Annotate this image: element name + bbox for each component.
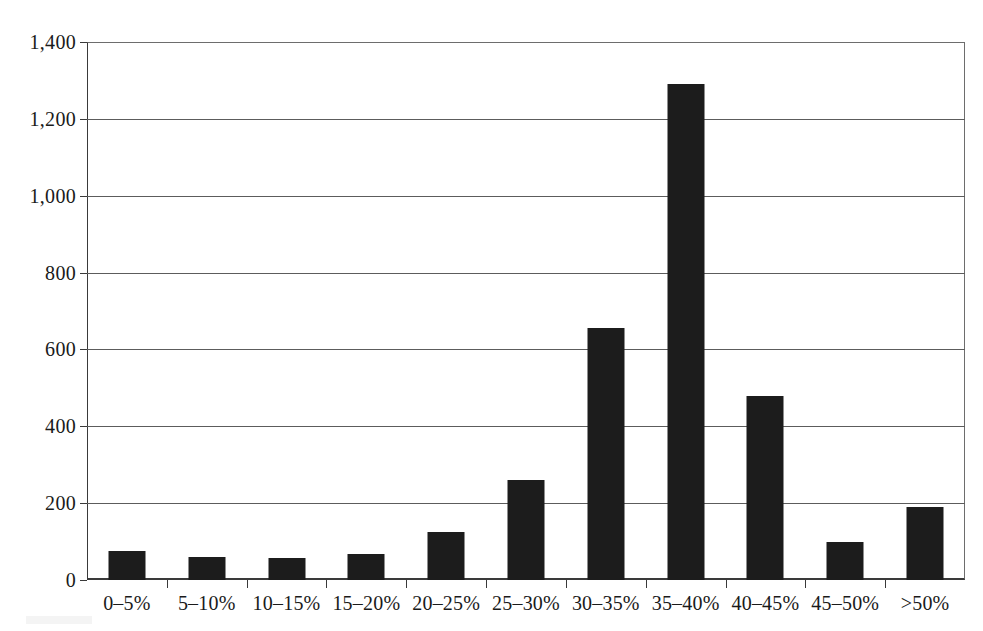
y-axis-tick-mark <box>80 349 87 350</box>
y-axis-tick-mark <box>80 42 87 43</box>
bar-slot <box>406 42 486 580</box>
bar <box>108 551 145 580</box>
y-axis-tick-mark <box>80 426 87 427</box>
bar-chart-figure: 02004006008001,0001,2001,400 0–5%5–10%10… <box>0 0 983 631</box>
bar-slot <box>326 42 406 580</box>
x-axis-tick-mark <box>805 580 806 588</box>
bar <box>667 84 704 580</box>
y-axis-tick-label: 1,400 <box>8 32 76 52</box>
bar-slot <box>87 42 167 580</box>
y-axis-tick-mark <box>80 119 87 120</box>
y-axis-tick-label: 1,000 <box>8 186 76 206</box>
x-axis-tick-label: >50% <box>870 592 980 614</box>
bar-slot <box>167 42 247 580</box>
x-axis-tick-mark <box>885 580 886 588</box>
bar-slot <box>805 42 885 580</box>
y-axis-tick-mark <box>80 196 87 197</box>
bar <box>268 558 305 580</box>
y-axis-tick-label: 0 <box>8 570 76 590</box>
y-axis-tick-label: 400 <box>8 416 76 436</box>
y-axis-tick-mark <box>80 273 87 274</box>
y-axis-tick-mark <box>80 580 87 581</box>
bar-slot <box>566 42 646 580</box>
y-axis-tick-label: 1,200 <box>8 109 76 129</box>
x-axis-tick-mark <box>167 580 168 588</box>
y-axis-tick-label: 800 <box>8 263 76 283</box>
y-axis-tick-label: 600 <box>8 339 76 359</box>
bar <box>907 507 944 580</box>
x-axis-tick-mark <box>726 580 727 588</box>
bar-slot <box>247 42 327 580</box>
scan-artifact <box>26 616 92 624</box>
x-axis-tick-mark <box>646 580 647 588</box>
bar <box>188 557 225 580</box>
bar <box>507 480 544 580</box>
bar <box>827 542 864 580</box>
x-axis-tick-mark <box>326 580 327 588</box>
bar <box>587 328 624 580</box>
y-axis-tick-mark <box>80 503 87 504</box>
bar-slot <box>646 42 726 580</box>
bar-slot <box>885 42 965 580</box>
plot-area <box>87 42 965 580</box>
y-axis-tick-label: 200 <box>8 493 76 513</box>
x-axis-tick-mark <box>566 580 567 588</box>
x-axis-tick-mark <box>247 580 248 588</box>
bar <box>428 532 465 580</box>
bar-slot <box>726 42 806 580</box>
bar-slot <box>486 42 566 580</box>
bar <box>747 396 784 580</box>
x-axis-tick-mark <box>486 580 487 588</box>
bar <box>348 554 385 580</box>
x-axis-tick-mark <box>406 580 407 588</box>
